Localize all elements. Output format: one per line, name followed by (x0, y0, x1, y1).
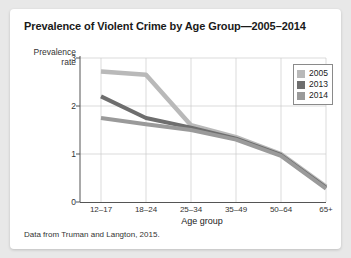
legend-label-2014: 2014 (309, 90, 328, 101)
x-tick-label-25-34: 25–34 (171, 205, 211, 214)
source-note: Data from Truman and Langton, 2015. (24, 230, 160, 239)
legend-swatch-icon-2013 (297, 81, 305, 89)
legend-item-2014: 2014 (297, 90, 328, 101)
x-tick-label-65-plus: 65+ (306, 205, 346, 214)
legend-label-2005: 2005 (309, 68, 328, 79)
legend-swatch-icon-2014 (297, 92, 305, 100)
x-tick-label-35-49: 35–49 (216, 205, 256, 214)
legend-swatch-icon-2005 (297, 70, 305, 78)
legend-item-2005: 2005 (297, 68, 328, 79)
x-tick-label-50-64: 50–64 (261, 205, 301, 214)
figure-card: Prevalence of Violent Crime by Age Group… (10, 9, 341, 249)
x-axis-title: Age group (78, 216, 326, 226)
legend-label-2013: 2013 (309, 79, 328, 90)
chart-legend: 2005 2013 2014 (293, 64, 333, 105)
x-tick-label-12-17: 12–17 (81, 205, 121, 214)
series-line-2013 (101, 96, 326, 187)
legend-item-2013: 2013 (297, 79, 328, 90)
series-line-2014 (101, 118, 326, 189)
x-tick-label-18-24: 18–24 (126, 205, 166, 214)
